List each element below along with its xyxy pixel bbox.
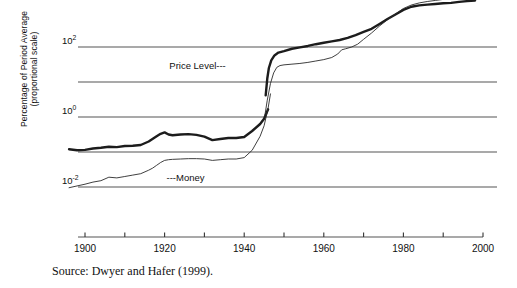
series-line-pre-war-price-level [69,109,268,150]
annotation-money: ---Money [167,172,205,183]
y-axis-title: Percentage of Period Average (proportion… [8,0,50,164]
gridlines-group [78,0,497,187]
x-tick-label-1900: 1900 [65,243,105,254]
x-tick-label-1960: 1960 [304,243,344,254]
x-axis-group [78,233,483,238]
y-tick-label-10e-2: 10-2 [62,175,79,186]
source-note: Source: Dwyer and Hafer (1999). [52,264,213,279]
y-tick-label-10e2: 102 [62,35,76,46]
series-group [69,0,475,188]
x-tick-label-1980: 1980 [383,243,423,254]
y-axis-title-line1: Percentage of Period Average [19,11,29,127]
series-line-post-war-price-level [266,0,475,95]
x-tick-label-2000: 2000 [463,243,503,254]
annotation-price-level: Price Level--- [169,60,226,71]
x-tick-label-1920: 1920 [145,243,185,254]
x-tick-label-1940: 1940 [224,243,264,254]
series-line-post-war-money [265,0,475,115]
figure-container: Percentage of Period Average (proportion… [0,0,517,288]
y-tick-label-10e0: 100 [62,105,76,116]
y-axis-title-line2: (proportional scale) [29,0,40,164]
